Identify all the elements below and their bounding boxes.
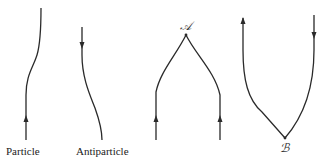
arrow-up-icon xyxy=(241,17,246,24)
vertex-b-label: ℬ xyxy=(280,141,289,156)
arrow-up-icon xyxy=(154,115,159,122)
antiparticle-worldline xyxy=(82,27,102,140)
vertex-b-dot xyxy=(284,137,287,140)
arrow-up-icon xyxy=(24,115,29,122)
particle-worldline xyxy=(26,8,41,140)
arrow-up-icon xyxy=(218,115,223,122)
vertex-a-dot xyxy=(185,34,188,37)
annihilation-right-line xyxy=(186,35,220,140)
vertex-a-label: 𝒜 xyxy=(180,19,191,34)
particle-label: Particle xyxy=(6,145,40,157)
creation-left-line xyxy=(243,18,285,138)
annihilation-left-line xyxy=(156,35,186,140)
arrow-down-icon xyxy=(312,32,317,39)
creation-right-line xyxy=(285,15,314,138)
arrow-down-icon xyxy=(80,42,85,49)
antiparticle-label: Antiparticle xyxy=(76,145,129,157)
